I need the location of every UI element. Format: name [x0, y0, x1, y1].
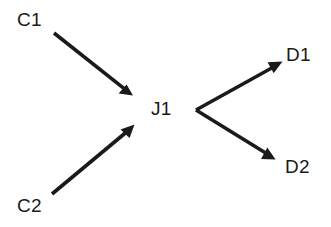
edge-j1-to-d2-shaft	[196, 110, 267, 154]
node-label-d1: D1	[286, 45, 311, 64]
edge-c1-to-j1-shaft	[54, 33, 125, 89]
node-label-c1: C1	[17, 10, 42, 29]
edge-c2-to-j1	[52, 125, 135, 195]
edge-j1-to-d1-shaft	[196, 67, 274, 110]
edge-c1-to-j1	[54, 33, 133, 96]
edge-c2-to-j1-shaft	[52, 132, 127, 194]
node-label-j1: J1	[151, 99, 171, 118]
edge-j1-to-d1	[196, 62, 283, 111]
flow-diagram-canvas: C1 C2 J1 D1 D2	[0, 0, 331, 227]
edge-j1-to-d2	[196, 110, 276, 160]
node-label-c2: C2	[17, 196, 42, 215]
node-label-d2: D2	[285, 157, 310, 176]
